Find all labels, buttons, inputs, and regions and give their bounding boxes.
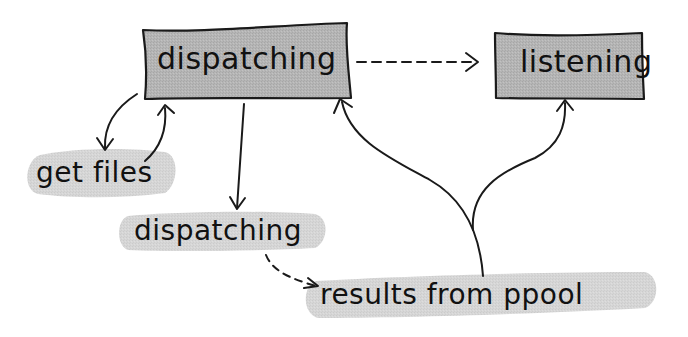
get-files-label: get files bbox=[36, 159, 153, 187]
arrow-dispatching-to-dispatching-event bbox=[237, 104, 244, 208]
arrow-results-to-dispatching bbox=[342, 102, 483, 276]
dispatching-event-label: dispatching bbox=[134, 217, 302, 245]
results-from-ppool-label: results from ppool bbox=[320, 281, 583, 309]
state-diagram: dispatching listening get files dispatch… bbox=[0, 0, 688, 337]
arrow-results-to-listening bbox=[473, 103, 565, 230]
arrow-dispatching-to-get-files bbox=[105, 94, 137, 148]
listening-state-label: listening bbox=[520, 47, 652, 77]
dispatching-state-label: dispatching bbox=[157, 44, 337, 74]
arrow-dispatching-event-to-results bbox=[266, 255, 316, 286]
